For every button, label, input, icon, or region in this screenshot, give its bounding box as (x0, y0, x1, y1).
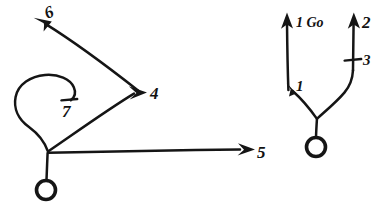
branch-1-line[interactable] (292, 91, 316, 119)
branch-3-curve[interactable] (317, 70, 353, 118)
right-stem-edge (316, 118, 317, 137)
branch-4-arrowhead (129, 86, 147, 99)
right-node-graph: 1 1 Go 3 2 (281, 12, 371, 156)
diagram-canvas: 5 4 6 7 1 (0, 0, 390, 209)
right-root-node-circle[interactable] (307, 138, 326, 157)
branch-5-line[interactable] (48, 150, 240, 153)
branch-1-go-line[interactable] (287, 23, 288, 90)
branch-6-label: 6 (41, 2, 56, 23)
branch-2-line[interactable] (353, 23, 354, 71)
branch-3-label: 3 (362, 52, 371, 68)
left-stem-edge (47, 153, 48, 180)
branch-7-tick (61, 99, 77, 100)
branch-1-label: 1 (296, 78, 304, 94)
branch-2-label: 2 (361, 13, 371, 32)
branch-1-go-label: 1 Go (296, 15, 324, 30)
left-node-graph: 5 4 6 7 (15, 2, 266, 200)
branch-4-label: 4 (149, 84, 159, 103)
branch-6-line[interactable] (45, 24, 139, 92)
branch-7-label: 7 (62, 102, 72, 121)
branch-5-label: 5 (257, 143, 266, 162)
left-root-node-circle[interactable] (37, 181, 56, 200)
diagram-svg: 5 4 6 7 1 (0, 0, 390, 209)
